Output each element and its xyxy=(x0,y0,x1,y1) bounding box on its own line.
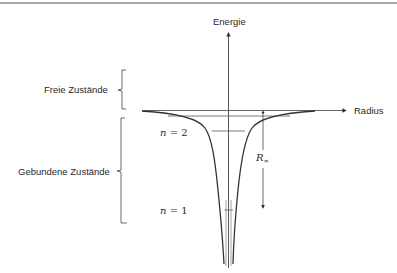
radius-axis-label: Radius xyxy=(354,106,384,116)
bound-states-brace xyxy=(117,118,127,223)
bound-states-label: Gebundene Zustände xyxy=(18,167,110,177)
n-value: 1 xyxy=(181,205,187,216)
level-n1-label: n = 1 xyxy=(160,206,188,216)
level-n2-label: n = 2 xyxy=(160,128,188,138)
rydberg-label: R∞ xyxy=(256,153,269,165)
n-value: 2 xyxy=(181,127,187,138)
equals: = xyxy=(166,127,181,138)
energy-axis-label: Energie xyxy=(213,17,246,27)
potential-curve-right xyxy=(233,111,315,264)
free-states-label: Freie Zustände xyxy=(44,85,108,95)
equals: = xyxy=(166,205,181,216)
potential-well-diagram xyxy=(0,0,397,273)
free-states-brace xyxy=(118,70,126,109)
rydberg-symbol: R xyxy=(256,152,264,163)
rydberg-subscript: ∞ xyxy=(264,157,269,165)
